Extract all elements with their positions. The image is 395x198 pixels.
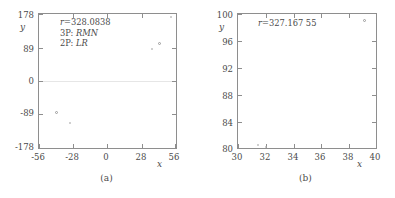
panel-a-y-axis-name: y [20, 22, 25, 32]
panel-a-xtick-neg28: -28 [65, 153, 79, 162]
panel-a-ytick-0: 0 [4, 77, 34, 86]
data-point [265, 146, 267, 148]
panel-b: 100 96 92 88 84 80 y [197, 0, 394, 198]
panel-a-3p-label: 3P: [60, 28, 73, 38]
panel-b-ytick-mark-5 [238, 148, 242, 149]
panel-b-ytick-84: 84 [201, 119, 233, 128]
panel-a-ytick-neg89: -89 [4, 109, 34, 118]
panel-a-xtick-28: 28 [136, 153, 147, 162]
panel-b-ytick-92: 92 [201, 65, 233, 74]
data-point [363, 19, 366, 22]
panel-b-ytick-mark-right-4 [372, 122, 376, 123]
panel-a-xtick-mark-1 [73, 144, 74, 148]
panel-b-ytick-100: 100 [201, 11, 233, 20]
panel-b-xtick-mark-top-4 [349, 14, 350, 18]
panel-b-xtick-36: 36 [315, 153, 326, 162]
panel-b-ytick-mark-right-3 [372, 95, 376, 96]
panel-b-xtick-30: 30 [232, 153, 243, 162]
panel-b-y-axis-name: y [219, 22, 224, 32]
panel-b-ytick-mark-3 [238, 95, 242, 96]
panel-a-3p-value: RMN [76, 28, 98, 38]
panel-b-xtick-38: 38 [343, 153, 354, 162]
panel-a-ytick-mark-1 [39, 48, 43, 49]
panel-a-ytick-mark-2 [39, 81, 43, 82]
panel-a-ytick-mark-4 [39, 148, 43, 149]
panel-b-xtick-34: 34 [288, 153, 299, 162]
panel-a-x-axis-name: x [157, 159, 162, 169]
panel-a-annotation-line-3: 2P: LR [60, 38, 111, 49]
panel-b-ytick-mark-0 [238, 14, 242, 15]
panel-b-annotation-line-1: r=327.167 55 [258, 18, 316, 29]
panel-b-annotation: r=327.167 55 [258, 18, 316, 29]
panel-b-xtick-mark-top-3 [321, 14, 322, 18]
panel-b-xtick-mark-2 [294, 144, 295, 148]
panel-b-annotation-r-value: 327.167 55 [269, 18, 317, 28]
panel-b-ytick-96: 96 [201, 38, 233, 47]
panel-a-annotation-line-1: r=328.0838 [60, 17, 111, 28]
data-point [55, 111, 58, 114]
panel-b-xtick-32: 32 [260, 153, 271, 162]
panel-a-xtick-56: 56 [169, 153, 180, 162]
data-point [170, 16, 172, 18]
panel-a-annotation-r-value: 328.0838 [71, 17, 111, 27]
panel-b-ytick-mark-right-1 [372, 41, 376, 42]
panel-a-gridline-y0 [39, 81, 176, 82]
panel-b-ytick-mark-1 [238, 41, 242, 42]
panel-a-xtick-neg56: -56 [31, 153, 45, 162]
panel-a-ytick-mark-right-2 [172, 81, 176, 82]
panel-b-ytick-88: 88 [201, 92, 233, 101]
data-point [69, 122, 71, 124]
panel-b-annotation-equals: = [262, 18, 269, 28]
data-point [158, 42, 161, 45]
panel-a-ytick-mark-3 [39, 114, 43, 115]
figure-two-panel-scatter: 178 89 0 -89 -178 y [0, 0, 395, 198]
panel-a-annotation: r=328.0838 3P: RMN 2P: LR [60, 17, 111, 49]
panel-b-ytick-mark-2 [238, 68, 242, 69]
panel-b-ytick-80: 80 [201, 145, 233, 154]
panel-b-xtick-mark-3 [321, 144, 322, 148]
panel-b-xtick-mark-4 [349, 144, 350, 148]
panel-a-ytick-89: 89 [4, 45, 34, 54]
panel-a-annotation-equals: = [64, 17, 71, 27]
panel-a-2p-value: LR [76, 38, 88, 48]
panel-a-2p-label: 2P: [60, 38, 73, 48]
panel-a-ytick-178: 178 [4, 11, 34, 20]
panel-a-xtick-mark-4 [175, 144, 176, 148]
panel-b-plot-area: r=327.167 55 [237, 13, 377, 149]
panel-a-ytick-mark-right-1 [172, 48, 176, 49]
panel-b-xtick-mark-5 [376, 144, 377, 148]
panel-b-x-axis-name: x [357, 159, 362, 169]
panel-a-ytick-mark-right-3 [172, 114, 176, 115]
panel-b-caption: (b) [207, 173, 395, 183]
panel-a-xtick-0: 0 [103, 153, 108, 162]
panel-a-ytick-neg178: -178 [4, 143, 34, 152]
panel-b-ytick-mark-right-2 [372, 68, 376, 69]
panel-a-xtick-mark-3 [142, 144, 143, 148]
panel-a-annotation-line-2: 3P: RMN [60, 28, 111, 39]
panel-a-xtick-mark-top-3 [142, 14, 143, 18]
data-point [257, 144, 259, 146]
panel-a-xtick-mark-2 [107, 144, 108, 148]
panel-a: 178 89 0 -89 -178 y [0, 0, 197, 198]
panel-a-plot-area: r=328.0838 3P: RMN 2P: LR [38, 13, 177, 149]
panel-a-caption: (a) [8, 173, 205, 183]
panel-b-ytick-mark-4 [238, 122, 242, 123]
data-point [151, 48, 153, 50]
panel-b-xtick-40: 40 [370, 153, 381, 162]
panel-a-ytick-mark-0 [39, 14, 43, 15]
